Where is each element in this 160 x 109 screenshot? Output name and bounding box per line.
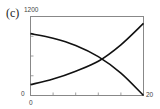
data-lines	[31, 23, 144, 95]
line-chart	[0, 0, 160, 109]
series-line-increasing	[31, 23, 144, 84]
series-line-decreasing	[31, 34, 144, 96]
plot-frame	[31, 17, 144, 96]
